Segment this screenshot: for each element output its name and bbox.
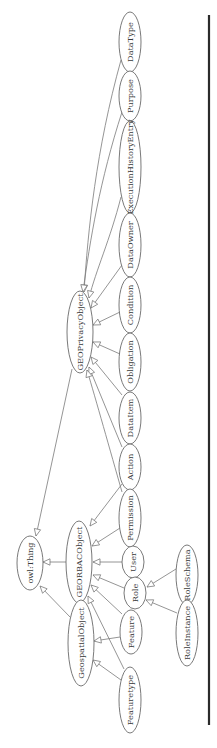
edge-condition-to-geoprivacyobject: [93, 312, 120, 325]
class-node-dataitem: DataItem: [119, 392, 141, 444]
hollow-arrowhead-icon: [88, 290, 94, 298]
edge-role-to-georbacobject: [93, 575, 124, 588]
edge-georbacobject-to-owl_thing: [43, 559, 66, 565]
class-node-condition: Condition: [119, 277, 141, 333]
hollow-arrowhead-icon: [43, 559, 50, 565]
class-node-geospatialobject: GeospatialObject: [68, 600, 94, 686]
hollow-arrowhead-icon: [34, 528, 40, 536]
edge-action-to-georbacobject: [90, 484, 122, 526]
hollow-arrowhead-icon: [91, 300, 98, 308]
class-node-roleinstance: RoleInstance: [176, 600, 198, 666]
class-node-user: User: [122, 546, 144, 578]
class-node-owl_thing: owl:Thing: [17, 536, 43, 590]
edge-dataitem-to-geoprivacyobject: [91, 357, 122, 395]
node-label: Role: [130, 584, 140, 603]
node-label: owl:Thing: [25, 542, 35, 583]
class-node-georbacobject: GEORBACObject: [66, 521, 92, 603]
class-node-featuretype: Featuretype: [119, 667, 141, 733]
node-label: Condition: [125, 284, 135, 325]
ontology-class-diagram: owl:ThingGEOPrivacyObjectGEORBACObjectGe…: [0, 0, 217, 748]
node-label: DataItem: [125, 398, 135, 437]
node-label: Feature: [126, 616, 136, 648]
class-node-obligation: Obligation: [119, 333, 141, 391]
node-label: Action: [125, 453, 135, 481]
edge-user-to-georbacobject: [93, 559, 122, 565]
inheritance-edges: [34, 60, 177, 680]
class-nodes: owl:ThingGEOPrivacyObjectGEORBACObjectGe…: [17, 12, 198, 733]
class-node-geoprivacyobject: GEOPrivacyObject: [67, 291, 93, 373]
node-label: Permission: [125, 495, 135, 541]
hollow-arrowhead-icon: [92, 540, 100, 546]
edge-dataowner-to-geoprivacyobject: [91, 265, 122, 308]
node-label: Purpose: [125, 79, 135, 113]
edge-purpose-to-geoprivacyobject: [81, 112, 122, 292]
class-node-role: Role: [124, 577, 146, 609]
node-label: GEORBACObject: [74, 526, 84, 598]
hollow-arrowhead-icon: [93, 342, 101, 348]
hollow-arrowhead-icon: [93, 660, 101, 667]
edge-roleinstance-to-role: [146, 600, 177, 613]
class-node-executionhistoryentry: ExecutionHistoryEntry: [119, 119, 141, 215]
class-node-permission: Permission: [119, 489, 141, 547]
edge-datatype-to-geoprivacyobject: [81, 60, 121, 292]
hollow-arrowhead-icon: [93, 559, 100, 565]
edge-featuretype-to-geospatialobject: [93, 660, 121, 680]
node-label: DataOwner: [125, 221, 135, 268]
class-node-datatype: DataType: [119, 12, 141, 72]
node-label: GEOPrivacyObject: [75, 293, 85, 371]
edge-line: [84, 60, 121, 292]
node-label: RoleInstance: [182, 606, 192, 660]
node-label: DataType: [125, 22, 135, 62]
edge-geoprivacyobject-to-owl_thing: [34, 369, 72, 536]
node-label: User: [128, 552, 138, 572]
class-node-feature: Feature: [120, 610, 142, 654]
hollow-arrowhead-icon: [88, 596, 94, 604]
hollow-arrowhead-icon: [94, 637, 101, 643]
class-node-purpose: Purpose: [119, 71, 141, 121]
edge-obligation-to-geoprivacyobject: [93, 342, 120, 354]
hollow-arrowhead-icon: [91, 357, 98, 364]
node-label: Featuretype: [125, 675, 135, 725]
node-label: GeospatialObject: [76, 607, 86, 679]
hollow-arrowhead-icon: [146, 600, 154, 606]
edge-line: [36, 369, 72, 536]
edge-line: [91, 265, 122, 308]
edge-line: [90, 484, 122, 526]
hollow-arrowhead-icon: [93, 319, 101, 325]
hollow-arrowhead-icon: [90, 518, 97, 526]
class-node-roleschema: RoleSchema: [176, 545, 198, 605]
edge-geospatialobject-to-owl_thing: [40, 586, 70, 617]
node-label: Obligation: [125, 340, 135, 384]
hollow-arrowhead-icon: [93, 575, 101, 581]
node-label: RoleSchema: [182, 549, 192, 601]
hollow-arrowhead-icon: [147, 581, 155, 587]
edge-executionhistoryentry-to-geoprivacyobject: [88, 197, 121, 298]
edge-feature-to-geospatialobject: [94, 637, 120, 643]
edge-feature-to-georbacobject: [91, 585, 122, 614]
edge-roleschema-to-role: [147, 569, 176, 587]
node-label: ExecutionHistoryEntry: [125, 119, 135, 215]
class-node-action: Action: [119, 444, 141, 490]
class-node-dataowner: DataOwner: [119, 213, 141, 277]
edge-line: [89, 197, 121, 298]
edge-permission-to-georbacobject: [92, 528, 120, 546]
